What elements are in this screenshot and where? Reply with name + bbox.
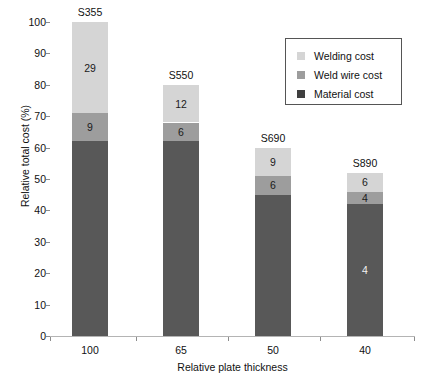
gridline xyxy=(50,336,415,337)
y-tick-label: 90 xyxy=(2,48,46,58)
bar-group: 446 xyxy=(347,173,383,336)
legend-item-weld-wire-cost: Weld wire cost xyxy=(286,65,401,84)
x-tick-mark xyxy=(414,337,415,341)
y-tick-label: 50 xyxy=(2,174,46,184)
bar-annotation-label: S550 xyxy=(136,69,226,81)
y-tick-label: 60 xyxy=(2,143,46,153)
y-tick-label: 80 xyxy=(2,80,46,90)
legend: Welding cost Weld wire cost Material cos… xyxy=(285,38,402,105)
y-tick: 20 xyxy=(0,268,46,278)
legend-swatch-icon xyxy=(297,71,305,79)
x-tick-mark xyxy=(136,337,137,341)
x-tick-label: 40 xyxy=(330,344,400,356)
legend-item-welding-cost: Welding cost xyxy=(286,46,401,65)
bar-segment-wire: 4 xyxy=(347,192,383,205)
x-tick-label: 65 xyxy=(146,344,216,356)
bar-segment-material xyxy=(255,195,291,336)
x-tick-mark xyxy=(50,337,51,341)
y-tick: 100 xyxy=(0,17,46,27)
bar-segment-material xyxy=(72,141,108,336)
y-tick-label: 10 xyxy=(2,300,46,310)
y-tick: 50 xyxy=(0,174,46,184)
legend-label: Welding cost xyxy=(314,50,374,62)
x-axis-title: Relative plate thickness xyxy=(50,361,415,373)
x-tick-mark xyxy=(228,337,229,341)
legend-swatch-icon xyxy=(297,90,305,98)
bar-segment-welding: 29 xyxy=(72,22,108,113)
bar-segment-welding: 9 xyxy=(255,148,291,176)
legend-item-material-cost: Material cost xyxy=(286,84,401,103)
y-tick: 60 xyxy=(0,143,46,153)
bar-segment-wire: 6 xyxy=(255,176,291,195)
bar-segment-material: 4 xyxy=(347,204,383,336)
y-tick: 40 xyxy=(0,205,46,215)
bar-annotation-label: S355 xyxy=(45,6,135,18)
y-tick-label: 0 xyxy=(2,331,46,341)
y-tick-label: 100 xyxy=(2,17,46,27)
legend-label: Material cost xyxy=(314,88,374,100)
legend-swatch-icon xyxy=(297,52,305,60)
y-tick-label: 40 xyxy=(2,205,46,215)
bar-annotation-label: S690 xyxy=(228,132,318,144)
bar-segment-welding: 12 xyxy=(163,85,199,123)
y-tick: 90 xyxy=(0,48,46,58)
y-tick-label: 20 xyxy=(2,268,46,278)
bar-group: 929 xyxy=(72,22,108,336)
bar-chart: Relative total cost (%) 1009080706050403… xyxy=(0,0,426,381)
y-tick: 80 xyxy=(0,80,46,90)
y-tick-label: 30 xyxy=(2,237,46,247)
bar-annotation-label: S890 xyxy=(320,157,410,169)
bar-group: 612 xyxy=(163,85,199,336)
bar-segment-welding: 6 xyxy=(347,173,383,192)
x-tick-mark xyxy=(320,337,321,341)
bar-group: 69 xyxy=(255,148,291,336)
y-axis-title: Relative total cost (%) xyxy=(19,71,31,241)
y-tick: 70 xyxy=(0,111,46,121)
legend-label: Weld wire cost xyxy=(314,69,382,81)
y-tick: 10 xyxy=(0,300,46,310)
y-tick-label: 70 xyxy=(2,111,46,121)
y-tick: 30 xyxy=(0,237,46,247)
x-tick-label: 50 xyxy=(238,344,308,356)
bar-segment-wire: 9 xyxy=(72,113,108,141)
bar-segment-wire: 6 xyxy=(163,123,199,142)
y-tick: 0 xyxy=(0,331,46,341)
x-tick-label: 100 xyxy=(55,344,125,356)
bar-segment-material xyxy=(163,141,199,336)
